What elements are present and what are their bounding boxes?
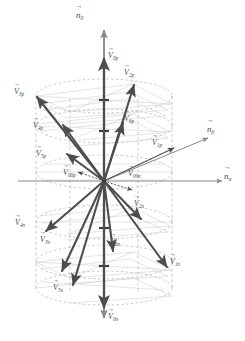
origin-point: [102, 179, 106, 183]
vector-label-V5n: V5n: [53, 284, 63, 292]
vector-label-V6n: V6n: [110, 238, 120, 246]
vector-label-V5p: V5p: [36, 150, 46, 158]
vector-diagram-canvas: [0, 0, 245, 341]
n-beta-axis-label: nβ: [207, 125, 214, 134]
vector-label-V00p: V00p: [63, 169, 76, 177]
vector-label-V2p: V2p: [124, 69, 134, 77]
vector-label-V0p: V0p: [108, 52, 118, 60]
vector-label-V2n: V2n: [134, 200, 144, 208]
vector-label-V0n: V0n: [108, 313, 118, 321]
vector-label-V4n: V4n: [15, 219, 25, 227]
vector-diagram-figure: n0 nα nβ V1p V2p V3p V4p V5p V6p V1n V2n…: [0, 0, 245, 341]
vector-label-V3p: V3p: [14, 88, 24, 96]
negative-vectors: [46, 181, 167, 285]
vector-label-V3n: V3n: [40, 236, 50, 244]
vector-V5n: [62, 181, 104, 271]
vector-label-V00n: V00n: [128, 170, 141, 178]
vector-label-V4p: V4p: [33, 122, 43, 130]
vector-label-V1p: V1p: [152, 139, 162, 147]
vector-label-V6p: V6p: [124, 115, 134, 123]
n-alpha-axis-label: nα: [224, 172, 231, 181]
vector-label-V1n: V1n: [170, 258, 180, 266]
n-zero-axis-label: n0: [76, 11, 83, 20]
